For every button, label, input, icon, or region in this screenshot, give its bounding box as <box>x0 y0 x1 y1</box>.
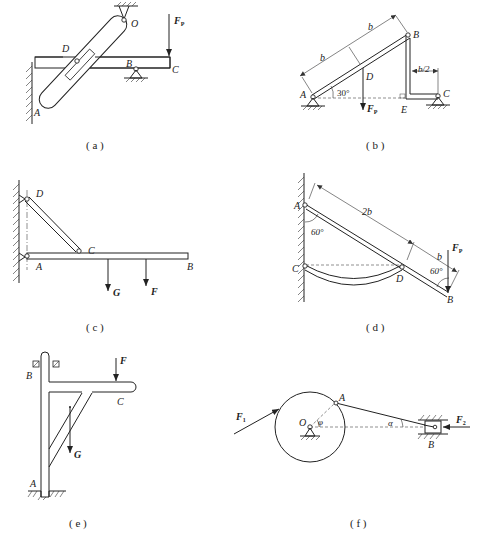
pin-d <box>75 59 79 63</box>
bar-ab-d <box>305 204 448 297</box>
angle-arc-60-b <box>437 278 449 287</box>
label-a-f: A <box>338 392 346 403</box>
label-d-c: D <box>35 188 44 199</box>
label-o-a: O <box>131 18 138 29</box>
dim-label-b2: b <box>368 21 373 32</box>
pin-d-d <box>400 265 404 269</box>
pin-a-f <box>334 401 338 405</box>
force-label-g-e: G <box>74 449 82 460</box>
label-d-b: D <box>365 71 374 82</box>
force-label-g-c: G <box>113 287 121 298</box>
label-a-a: A <box>33 107 41 118</box>
label-b-a: B <box>126 58 132 69</box>
label-a-d: A <box>293 200 301 211</box>
label-c-c: C <box>88 245 95 256</box>
dim-label-b-d: b <box>437 251 442 262</box>
angle-label-alpha: α <box>388 418 393 428</box>
label-a-c: A <box>35 261 43 272</box>
wall-d <box>298 173 304 302</box>
pin-c-c <box>77 249 81 253</box>
force-label-fp-d: FP <box>451 242 463 254</box>
label-a-e: A <box>29 478 37 489</box>
caption-d: ( d ) <box>366 321 385 334</box>
wall-a <box>26 62 32 124</box>
bar-ab <box>312 34 410 99</box>
force-label-f-e: F <box>119 355 127 366</box>
angle-label-60-a: 60° <box>311 227 324 237</box>
label-c-b: C <box>443 88 450 99</box>
mechanics-figure: FP O D B C A ( a ) <box>0 0 480 541</box>
caption-a: ( a ) <box>86 139 104 152</box>
guide-b-e <box>33 361 59 367</box>
angle-label-phi: φ <box>318 417 323 427</box>
pin-b <box>406 33 410 37</box>
label-b-b: B <box>413 29 419 40</box>
caption-e: ( e ) <box>69 517 87 530</box>
label-c-e: C <box>117 396 124 407</box>
label-b-f: B <box>428 439 434 450</box>
label-b-d: B <box>447 294 453 305</box>
label-o-f: O <box>299 417 306 428</box>
panel-c: D C A B G F ( c ) <box>13 180 193 334</box>
panel-a: FP O D B C A ( a ) <box>26 2 185 152</box>
caption-b: ( b ) <box>366 139 385 152</box>
panel-e: B C A F G ( e ) <box>26 352 136 530</box>
pin-d-c <box>25 197 29 201</box>
rod-ab-f <box>336 403 433 427</box>
caption-c: ( c ) <box>86 321 104 334</box>
dim-label-2b: 2b <box>362 206 372 217</box>
pin-c-d <box>303 264 307 268</box>
angle-label-30: 30° <box>337 88 350 98</box>
arm-bc-e <box>49 382 136 392</box>
force-label-fp-a: FP <box>173 15 185 27</box>
pin-a-c <box>25 254 29 258</box>
label-c-d: C <box>292 263 299 274</box>
force-label-f2: F2 <box>455 414 466 426</box>
caption-f: ( f ) <box>350 517 367 530</box>
bar-cd-curved <box>305 265 402 285</box>
label-d-d: D <box>395 273 404 284</box>
force-label-f1: F1 <box>235 411 246 423</box>
bar-dc <box>25 197 80 252</box>
ground-a-e <box>28 491 66 500</box>
support-b <box>124 67 148 82</box>
panel-b: b b b/2 D A B C E 30° FP ( b ) <box>299 15 450 152</box>
dim-label-b1: b <box>320 52 325 63</box>
angle-arc-alpha <box>401 419 403 427</box>
post-ab-e <box>41 352 49 497</box>
label-c-a: C <box>172 64 179 75</box>
dim-label-b-half: b/2 <box>418 64 430 74</box>
label-b-e: B <box>26 370 32 381</box>
force-label-f-c: F <box>150 286 158 297</box>
label-b-c: B <box>187 261 193 272</box>
label-d-a: D <box>61 43 70 54</box>
pin-a-d <box>303 203 307 207</box>
panel-f: O A B φ α F1 F2 ( f ) <box>234 392 470 530</box>
label-a-b: A <box>299 89 307 100</box>
beam-bc <box>35 57 170 68</box>
panel-d: A C D B 2b b 60° 60° FP ( d ) <box>292 173 463 334</box>
label-e-b: E <box>400 104 407 115</box>
force-label-fp-b: FP <box>366 103 378 115</box>
angle-label-60-b: 60° <box>430 266 443 276</box>
beam-ab-c <box>27 253 188 259</box>
